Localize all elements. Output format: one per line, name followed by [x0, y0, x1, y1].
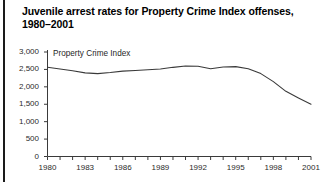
- x-tick-label: 1980: [31, 164, 65, 172]
- x-tick-label: 1992: [181, 164, 215, 172]
- x-tick-label: 1998: [256, 164, 290, 172]
- chart-title: Juvenile arrest rates for Property Crime…: [22, 5, 322, 31]
- y-tick-label: 0: [5, 153, 39, 161]
- axes: [48, 50, 312, 157]
- x-tick-label: 1983: [68, 164, 102, 172]
- y-tick-label: 1,500: [5, 100, 39, 108]
- y-tick-label: 1,000: [5, 118, 39, 126]
- y-tick-label: 2,000: [5, 83, 39, 91]
- x-tick-label: 1995: [219, 164, 253, 172]
- series-line-property-crime-index: [48, 66, 312, 104]
- chart-figure: Juvenile arrest rates for Property Crime…: [0, 0, 332, 182]
- y-tick-label: 500: [5, 135, 39, 143]
- x-tick-label: 1986: [106, 164, 140, 172]
- plot-area: 05001,0001,5002,0002,5003,000 1980198319…: [0, 40, 332, 182]
- x-tick-marks: [48, 157, 312, 161]
- chart-title-line-1: Juvenile arrest rates for Property Crime…: [22, 5, 294, 17]
- x-tick-label: 2001: [294, 164, 328, 172]
- x-tick-label: 1989: [143, 164, 177, 172]
- chart-title-line-2: 1980–2001: [22, 18, 322, 31]
- series-annotation-label: Property Crime Index: [53, 49, 130, 58]
- y-tick-label: 2,500: [5, 65, 39, 73]
- chart-canvas: [0, 40, 332, 182]
- y-tick-marks: [44, 52, 48, 157]
- y-tick-label: 3,000: [5, 48, 39, 56]
